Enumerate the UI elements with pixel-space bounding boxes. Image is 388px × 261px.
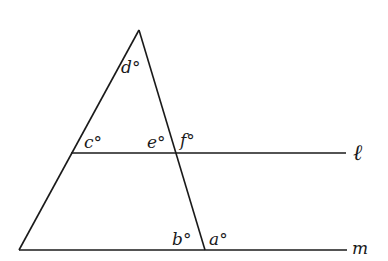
line-label-l: ℓ (353, 140, 363, 165)
angle-label-d: d° (121, 57, 140, 77)
geometry-diagram: d° c° e° f° b° a° ℓ m (0, 0, 388, 261)
line-label-m: m (352, 238, 368, 258)
angle-label-a: a° (209, 229, 228, 249)
angle-label-b: b° (172, 229, 191, 249)
angle-label-c: c° (84, 132, 102, 152)
angle-label-e: e° (147, 132, 166, 152)
angle-label-f: f° (178, 130, 195, 150)
